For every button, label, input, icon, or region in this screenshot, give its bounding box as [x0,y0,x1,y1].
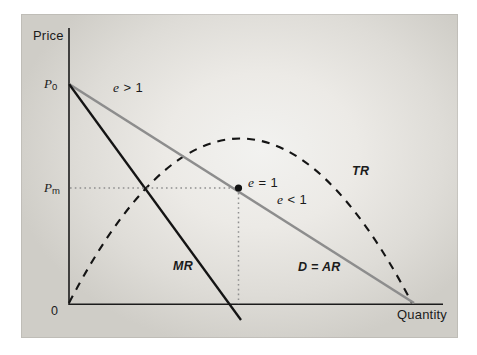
price-p0-label: P0 [44,77,57,92]
elastic-symbol: e [113,80,119,95]
demand-line [69,84,414,303]
unit-elastic-symbol: e [248,175,254,190]
inelastic-rest: < 1 [287,192,307,207]
price-pm-label: Pm [44,181,60,196]
origin-label: 0 [51,305,58,318]
x-axis-label: Quantity [397,308,447,321]
unit-elastic-label: e = 1 [248,176,278,190]
y-axis-label: Price [33,29,64,42]
mr-line [69,84,241,320]
inelastic-region-label: e < 1 [277,193,307,207]
mr-curve-label: MR [173,260,193,273]
price-pm-subscript: m [52,185,60,196]
inelastic-symbol: e [277,192,283,207]
price-p0-subscript: 0 [52,81,57,92]
demand-curve-label: D = AR [298,261,341,274]
elastic-region-label: e > 1 [113,81,143,95]
unit-elastic-point-marker [235,184,242,191]
figure-root: Price Quantity 0 P0 Pm e > 1 e = 1 e < 1… [0,0,477,355]
unit-elastic-rest: = 1 [258,175,278,190]
plot-canvas [0,0,477,355]
elastic-rest: > 1 [123,80,143,95]
tr-curve-label: TR [352,165,369,178]
price-p0-symbol: P [44,76,52,91]
price-pm-symbol: P [44,180,52,195]
